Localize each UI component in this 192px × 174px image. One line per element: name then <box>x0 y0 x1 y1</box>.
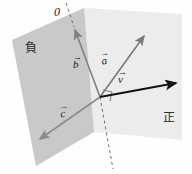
positive-region-label: 正 <box>163 112 175 124</box>
negative-region-label: 負 <box>25 42 37 54</box>
vector-diagram: 0 → b → a → v → c 負 正 <box>0 0 192 174</box>
vector-label-v: → v <box>118 70 127 85</box>
vector-label-c: → c <box>59 103 70 119</box>
vector-letter-b: b <box>73 58 79 70</box>
vector-letter-v: v <box>118 73 123 85</box>
diagram-canvas <box>0 0 192 174</box>
vector-label-b: → b <box>73 55 82 70</box>
origin-label: 0 <box>54 6 60 18</box>
